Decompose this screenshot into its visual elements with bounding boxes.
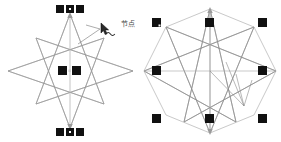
left-figure[interactable]: 节点	[0, 0, 140, 142]
left-node-handles-center[interactable]	[58, 66, 81, 75]
left-leader-line	[78, 25, 100, 44]
handle-middle-left[interactable]	[152, 66, 161, 75]
handle-bottom-center[interactable]	[205, 114, 214, 123]
right-figure[interactable]: 干	[140, 0, 281, 142]
canvas-stage: 节点	[0, 0, 281, 142]
left-node-handles-top[interactable]	[56, 5, 84, 13]
left-node-handles-bottom[interactable]	[56, 128, 84, 136]
handle-bottom-right[interactable]	[258, 114, 267, 123]
handle-top-center[interactable]	[205, 18, 214, 27]
left-star-graphic[interactable]	[0, 0, 140, 142]
handle-top-right[interactable]	[258, 18, 267, 27]
handle-top-left[interactable]	[152, 18, 161, 27]
handle-bottom-left[interactable]	[152, 114, 161, 123]
right-star-graphic[interactable]	[140, 0, 281, 142]
left-annotation-label: 节点	[121, 21, 135, 28]
handle-middle-right[interactable]	[258, 66, 267, 75]
